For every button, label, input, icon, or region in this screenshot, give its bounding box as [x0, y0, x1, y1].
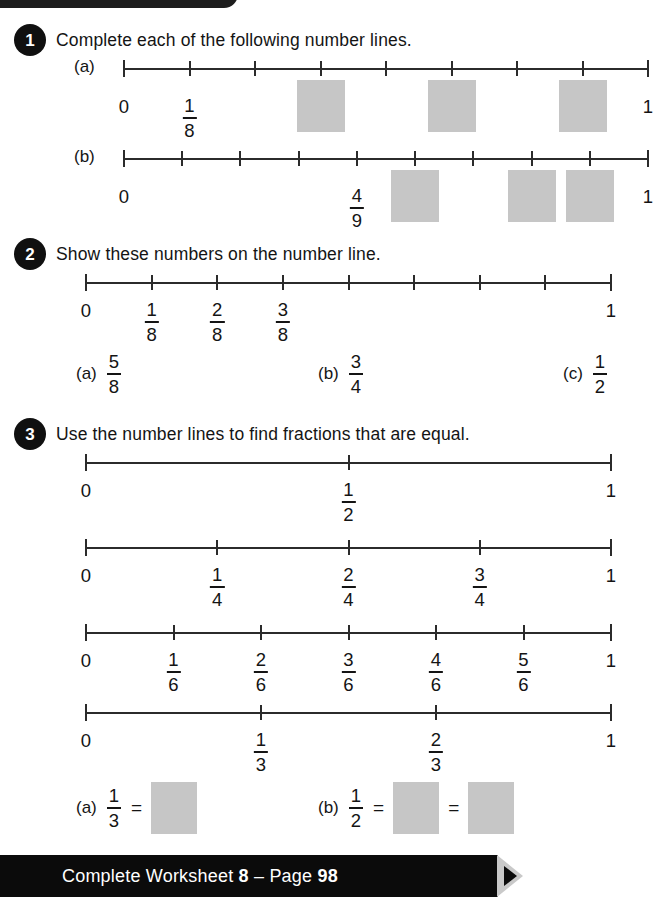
q3-line-2-tick-2 — [260, 625, 262, 640]
q3-line-1-label-1: 14 — [209, 565, 225, 611]
answer-box-1[interactable] — [468, 782, 514, 834]
q1a-tick-5 — [451, 61, 453, 76]
fraction-bar — [144, 321, 158, 323]
q1a-fraction-1: 18 — [181, 96, 197, 140]
q1a-tick-8 — [647, 60, 649, 77]
q3-line-0-tick-1 — [348, 455, 350, 470]
fraction-bar — [210, 586, 224, 588]
footer-separator: – Page — [249, 866, 318, 886]
answer-box-0[interactable] — [151, 782, 197, 834]
fraction-denominator: 8 — [106, 377, 122, 396]
q3-line-2-tick-0 — [85, 624, 87, 641]
fraction-bar — [516, 671, 530, 673]
fraction-numerator: 2 — [340, 565, 356, 584]
fraction-bar — [254, 671, 268, 673]
q3-line-3-tick-1 — [260, 705, 262, 720]
q3-line-0-label-2: 1 — [606, 480, 616, 502]
subpart-label: (b) — [318, 364, 339, 384]
fraction-denominator: 4 — [472, 590, 488, 609]
q2-label-0: 0 — [81, 300, 91, 322]
fraction-denominator: 9 — [349, 211, 365, 230]
fraction-numerator: 1 — [165, 650, 181, 669]
top-black-tab — [0, 0, 238, 8]
fraction-numerator: 3 — [275, 300, 291, 319]
fraction-numerator: 1 — [592, 352, 608, 371]
fraction-bar — [593, 373, 607, 375]
q3-line-2-label-1: 16 — [165, 650, 181, 696]
equals-sign: = — [373, 797, 384, 819]
answer-label: (b) — [318, 798, 339, 818]
q3-line-3-tick-0 — [85, 704, 87, 721]
question-2-subpart-b: (b)34 — [318, 352, 364, 396]
question-1-badge: 1 — [14, 24, 46, 56]
q3-line-2-label-6: 1 — [606, 650, 616, 672]
fraction-numerator: 5 — [106, 352, 122, 371]
fraction-denominator: 4 — [348, 377, 364, 396]
fraction-bar — [350, 207, 364, 209]
answer-box-0[interactable] — [393, 782, 439, 834]
question-3-answer-a: (a)13= — [76, 782, 197, 834]
fraction-denominator: 8 — [275, 325, 291, 344]
q1b-answer-box-2[interactable] — [566, 170, 614, 222]
fraction-bar — [341, 501, 355, 503]
q3-line-0-label-1: 12 — [340, 480, 356, 526]
fraction-numerator: 1 — [348, 786, 364, 805]
q2-tick-1 — [151, 275, 153, 290]
q3-line-2-tick-6 — [610, 624, 612, 641]
fraction-denominator: 4 — [340, 590, 356, 609]
fraction-denominator: 8 — [181, 121, 197, 140]
q1a-answer-box-1[interactable] — [428, 80, 476, 132]
q3-line-2-fraction-2: 26 — [253, 650, 269, 694]
q1a-tick-6 — [516, 61, 518, 76]
fraction-denominator: 2 — [340, 505, 356, 524]
q1b-tick-3 — [298, 151, 300, 166]
fraction-bar — [107, 373, 121, 375]
subpart-label: (a) — [76, 364, 97, 384]
fraction-bar — [276, 321, 290, 323]
q1a-answer-box-0[interactable] — [297, 80, 345, 132]
fraction-numerator: 5 — [515, 650, 531, 669]
fraction-bar — [341, 586, 355, 588]
question-2-subpart-a: (a)58 — [76, 352, 122, 396]
q3-line-1-tick-3 — [479, 540, 481, 555]
q1b-tick-8 — [589, 151, 591, 166]
q2-tick-2 — [216, 275, 218, 290]
q2-fraction-2: 28 — [209, 300, 225, 344]
q3-line-1-tick-4 — [610, 539, 612, 556]
q3-line-0-fraction-1: 12 — [340, 480, 356, 524]
q3-line-2-fraction-3: 36 — [340, 650, 356, 694]
q1b-tick-4 — [356, 151, 358, 166]
q3-line-1-tick-0 — [85, 539, 87, 556]
fraction-numerator: 4 — [349, 186, 365, 205]
equals-sign: = — [131, 797, 142, 819]
fraction-denominator: 8 — [209, 325, 225, 344]
fraction-denominator: 4 — [209, 590, 225, 609]
question-2-badge: 2 — [14, 238, 46, 270]
fraction-denominator: 3 — [428, 755, 444, 774]
fraction-numerator: 3 — [348, 352, 364, 371]
fraction-bar — [166, 671, 180, 673]
footer-prefix: Complete Worksheet — [62, 866, 239, 886]
q1b-tick-0 — [123, 150, 125, 167]
q1a-answer-box-2[interactable] — [559, 80, 607, 132]
q1b-tick-2 — [239, 151, 241, 166]
fraction-numerator: 2 — [428, 730, 444, 749]
answer-label: (a) — [76, 798, 97, 818]
fraction-denominator: 6 — [340, 675, 356, 694]
q1b-tick-9 — [647, 150, 649, 167]
q3-line-2-label-3: 36 — [340, 650, 356, 696]
q3-line-2-tick-3 — [348, 625, 350, 640]
q3-line-1-fraction-2: 24 — [340, 565, 356, 609]
fraction-denominator: 6 — [165, 675, 181, 694]
q1b-label-4: 49 — [349, 186, 365, 232]
q3-line-2-label-0: 0 — [81, 650, 91, 672]
answer-fraction: 12 — [348, 786, 364, 830]
fraction-denominator: 6 — [253, 675, 269, 694]
fraction-numerator: 1 — [340, 480, 356, 499]
q2-label-3: 38 — [275, 300, 291, 346]
q1b-answer-box-1[interactable] — [508, 170, 556, 222]
q1a-label-0: 0 — [119, 96, 129, 118]
q3-line-1-label-4: 1 — [606, 565, 616, 587]
q1a-tick-1 — [189, 61, 191, 76]
q1b-answer-box-0[interactable] — [391, 170, 439, 222]
